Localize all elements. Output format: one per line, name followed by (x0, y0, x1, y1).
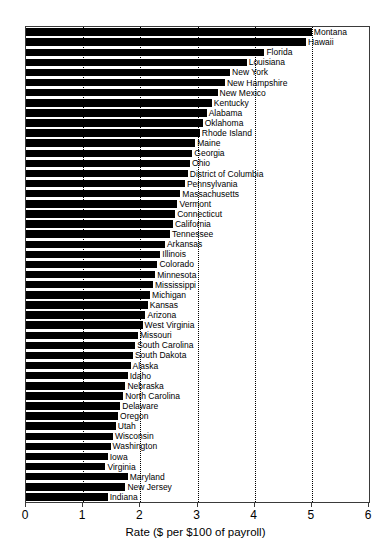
bar-row: Nebraska (26, 382, 369, 389)
bar-series: MontanaHawaiiFloridaLouisianaNew YorkNew… (26, 27, 369, 502)
bar-row: Minnesota (26, 271, 369, 278)
bar (26, 271, 155, 278)
bar (26, 230, 170, 237)
bar-row: Georgia (26, 150, 369, 157)
bar (26, 412, 118, 419)
bar (26, 372, 128, 379)
bar-row: Louisiana (26, 59, 369, 66)
bar-label: Illinois (160, 250, 186, 259)
bar-label: Maine (195, 139, 220, 148)
bar (26, 311, 145, 318)
x-tick-1 (82, 503, 83, 507)
bar-row: New Jersey (26, 483, 369, 490)
bar (26, 392, 123, 399)
bar-row: South Carolina (26, 342, 369, 349)
x-tick-3 (197, 503, 198, 507)
bar-row: Hawaii (26, 38, 369, 45)
bar-row: Idaho (26, 372, 369, 379)
bar (26, 129, 200, 136)
bar-label: Oregon (118, 412, 148, 421)
x-tick-4 (254, 503, 255, 507)
x-tick-6 (368, 503, 369, 507)
bar-row: New Mexico (26, 89, 369, 96)
bar-label: South Carolina (135, 341, 193, 350)
x-tick-label-5: 5 (307, 508, 314, 522)
bar-label: Missouri (138, 331, 172, 340)
bar-row: Alaska (26, 362, 369, 369)
bar-row: Montana (26, 28, 369, 35)
bar-label: South Dakota (133, 351, 187, 360)
x-tick-label-2: 2 (136, 508, 143, 522)
bar-label: West Virginia (143, 321, 195, 330)
bar (26, 382, 125, 389)
plot-area: MontanaHawaiiFloridaLouisianaNew YorkNew… (25, 26, 370, 503)
bar-row: Delaware (26, 402, 369, 409)
bar-row: Arkansas (26, 241, 369, 248)
bar (26, 79, 225, 86)
bar (26, 342, 135, 349)
bar-row: Wisconsin (26, 433, 369, 440)
bar-chart: MontanaHawaiiFloridaLouisianaNew YorkNew… (0, 0, 391, 558)
bar-row: Tennessee (26, 230, 369, 237)
x-tick-label-0: 0 (22, 508, 29, 522)
bar-label: New Jersey (125, 482, 171, 491)
bar (26, 422, 116, 429)
bar-row: Massachusetts (26, 190, 369, 197)
bar-label: Alaska (131, 361, 159, 370)
bar (26, 261, 157, 268)
x-axis-title: Rate ($ per $100 of payroll) (0, 526, 391, 538)
bar (26, 59, 247, 66)
bar (26, 180, 185, 187)
bar (26, 69, 230, 76)
x-tick-label-6: 6 (365, 508, 372, 522)
bar-label: Rhode Island (200, 129, 252, 138)
bar-label: New Mexico (218, 88, 266, 97)
bar-label: Massachusetts (180, 189, 239, 198)
bar (26, 332, 138, 339)
bar-label: Minnesota (155, 270, 196, 279)
bar-row: Illinois (26, 251, 369, 258)
bar-label: Alabama (207, 108, 243, 117)
bar-row: Kentucky (26, 99, 369, 106)
bar-label: Washington (111, 442, 158, 451)
bar-row: Missouri (26, 332, 369, 339)
bar-row: Rhode Island (26, 129, 369, 136)
bar-label: Georgia (192, 149, 224, 158)
x-tick-2 (139, 503, 140, 507)
bar (26, 402, 120, 409)
bar-row: South Dakota (26, 352, 369, 359)
x-tick-label-4: 4 (250, 508, 257, 522)
bar (26, 200, 177, 207)
bar-row: Pennsylvania (26, 180, 369, 187)
bar (26, 28, 312, 35)
bar-label: Utah (116, 422, 136, 431)
bar (26, 301, 148, 308)
bar-label: Vermont (177, 199, 211, 208)
bar (26, 483, 125, 490)
bar-label: Arkansas (165, 240, 202, 249)
bar (26, 210, 175, 217)
bar-label: Wisconsin (113, 432, 154, 441)
bar-row: Indiana (26, 493, 369, 500)
x-tick-label-3: 3 (193, 508, 200, 522)
x-tick-label-1: 1 (79, 508, 86, 522)
bar-row: New York (26, 69, 369, 76)
bar-row: Arizona (26, 311, 369, 318)
bar-label: Delaware (120, 401, 158, 410)
bar (26, 49, 264, 56)
bar-label: Florida (264, 48, 292, 57)
bar-label: Nebraska (125, 381, 163, 390)
bar-row: Colorado (26, 261, 369, 268)
bar-row: District of Columbia (26, 170, 369, 177)
bar-label: Kansas (148, 300, 178, 309)
bar (26, 220, 173, 227)
x-tick-0 (25, 503, 26, 507)
bar (26, 160, 190, 167)
bar (26, 99, 212, 106)
bar-label: North Carolina (123, 391, 180, 400)
bar-label: Pennsylvania (185, 179, 238, 188)
bar-row: Virginia (26, 463, 369, 470)
bar-label: Oklahoma (203, 119, 244, 128)
bar (26, 321, 143, 328)
bar-label: Mississippi (153, 280, 196, 289)
